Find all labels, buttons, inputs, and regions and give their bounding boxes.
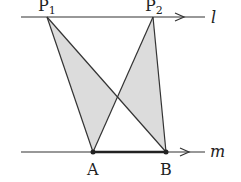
label-l: l (211, 8, 216, 27)
point-b (164, 150, 169, 155)
point-a (91, 150, 96, 155)
label-p1: P1 (38, 0, 56, 17)
label-m: m (210, 142, 225, 161)
label-p2: P2 (145, 0, 163, 17)
triangle-diagram: l m P1 P2 A B (0, 0, 241, 182)
label-a: A (86, 160, 99, 179)
label-b: B (160, 160, 172, 179)
